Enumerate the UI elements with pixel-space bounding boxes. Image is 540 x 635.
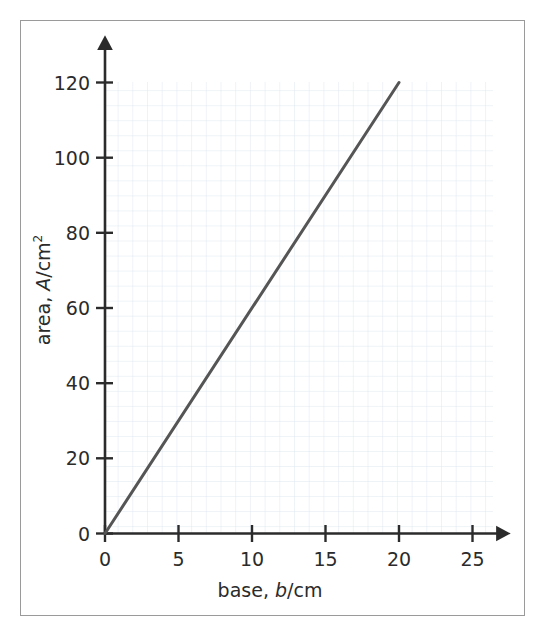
x-axis-title: base, b/cm: [218, 581, 323, 600]
y-tick-label-100: 100: [10, 148, 90, 167]
y-tick-label-120: 120: [10, 73, 90, 92]
minor-gridlines: [105, 82, 493, 533]
x-tick-label-10: 10: [240, 550, 264, 569]
x-tick-label-25: 25: [460, 550, 484, 569]
y-tick-label-0: 0: [10, 524, 90, 543]
x-tick-label-5: 5: [172, 550, 184, 569]
x-tick-label-20: 20: [387, 550, 411, 569]
y-tick-label-20: 20: [10, 449, 90, 468]
y-axis-title-prefix: area,: [32, 291, 54, 345]
figure-root: 0 20 40 60 80 100 120 0 5 10 15 20 25 ba…: [0, 0, 540, 635]
x-tick-label-15: 15: [313, 550, 337, 569]
x-axis-title-variable: b: [275, 579, 287, 601]
plot-stage: 0 20 40 60 80 100 120 0 5 10 15 20 25 ba…: [0, 0, 540, 635]
y-axis-title-superscript: 2: [31, 235, 45, 243]
x-axis-title-suffix: /cm: [287, 579, 322, 601]
y-axis-title-suffix: /cm: [32, 242, 54, 277]
x-tick-label-0: 0: [99, 550, 111, 569]
x-axis-title-prefix: base,: [218, 579, 275, 601]
grid-layer: [105, 82, 493, 533]
y-tick-label-40: 40: [10, 374, 90, 393]
y-axis-title: area, A/cm2: [34, 235, 53, 345]
y-axis-title-variable: A: [32, 278, 54, 291]
